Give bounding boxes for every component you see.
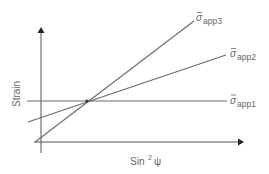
svg-text:app2: app2	[237, 52, 256, 62]
x-axis-arrow-icon	[238, 139, 244, 146]
label-app3: σ app3	[196, 12, 222, 26]
intersection-point	[85, 99, 88, 102]
svg-text:ψ: ψ	[154, 156, 161, 167]
svg-text:Sin: Sin	[130, 156, 144, 167]
svg-text:σ: σ	[230, 48, 237, 59]
line-app3	[35, 21, 194, 142]
svg-text:2: 2	[148, 154, 152, 161]
svg-text:app1: app1	[237, 99, 256, 109]
x-axis-label: Sin 2 ψ	[130, 154, 161, 167]
svg-text:σ: σ	[230, 95, 237, 106]
y-axis-label: Strain	[11, 81, 22, 107]
y-axis-arrow-icon	[38, 27, 45, 33]
svg-text:σ: σ	[196, 12, 203, 23]
svg-text:app3: app3	[203, 16, 222, 26]
strain-vs-sin2psi-diagram: σ app3 σ app2 σ app1 Strain Sin 2 ψ	[0, 0, 269, 174]
label-app2: σ app2	[230, 48, 256, 62]
line-app2	[28, 55, 226, 122]
label-app1: σ app1	[230, 95, 256, 109]
